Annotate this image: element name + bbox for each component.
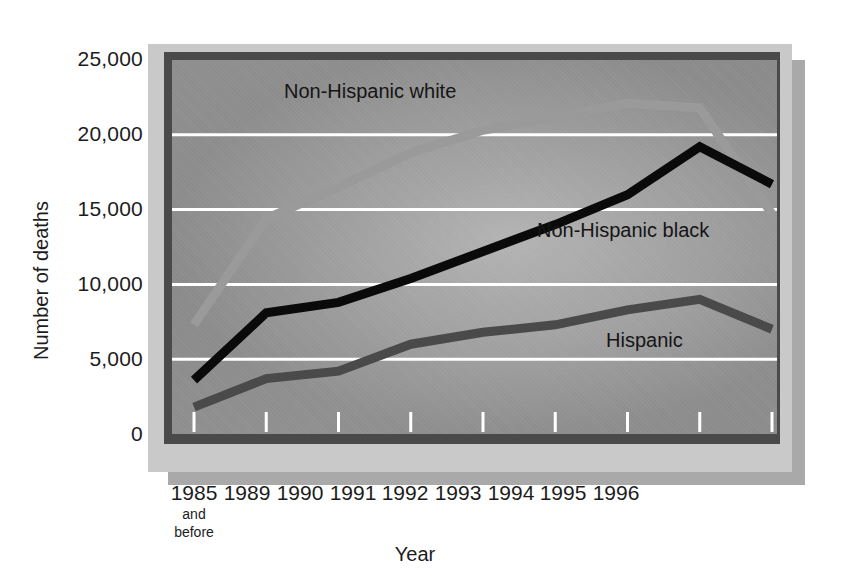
x-axis-title: Year — [355, 543, 475, 566]
chart-figure: 25,000 20,000 15,000 10,000 5,000 0 Numb… — [0, 0, 841, 584]
y-tick-label-0: 0 — [48, 422, 143, 446]
x-tick-sublabel-1985-before: before — [151, 524, 237, 540]
y-tick-label-5000: 5,000 — [48, 347, 143, 371]
y-tick-label-15000: 15,000 — [48, 197, 143, 221]
series-lines — [194, 103, 772, 407]
y-axis-title: Number of deaths — [30, 201, 53, 360]
x-tick-label-1996: 1996 — [573, 481, 659, 505]
series-label-hispanic: Hispanic — [606, 329, 683, 352]
gridlines — [172, 135, 777, 359]
series-line-non-hispanic-black — [194, 147, 772, 380]
x-tick-marks — [194, 412, 772, 432]
plot-svg — [172, 60, 777, 434]
series-label-non-hispanic-black: Non-Hispanic black — [537, 219, 709, 242]
series-line-hispanic — [194, 299, 772, 407]
y-tick-label-25000: 25,000 — [48, 47, 143, 71]
series-line-non-hispanic-white — [194, 103, 772, 324]
y-tick-label-10000: 10,000 — [48, 272, 143, 296]
y-tick-label-20000: 20,000 — [48, 122, 143, 146]
series-label-non-hispanic-white: Non-Hispanic white — [284, 80, 456, 103]
x-tick-sublabel-1985-and: and — [151, 506, 237, 522]
